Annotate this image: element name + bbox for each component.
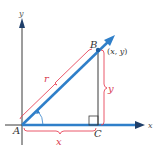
x-axis-label: x xyxy=(148,121,153,130)
y-axis-arrow-icon xyxy=(19,18,25,28)
horizontal-label: x xyxy=(56,136,62,147)
right-angle-marker xyxy=(89,116,98,125)
x-axis-arrow-icon xyxy=(135,121,145,129)
point-c-label: C xyxy=(94,128,102,139)
brace-r xyxy=(20,49,92,119)
vertical-label: y xyxy=(107,83,114,94)
brace-y xyxy=(101,50,107,125)
brace-x xyxy=(24,128,96,134)
y-axis-label: y xyxy=(18,9,24,18)
point-b-label: B xyxy=(89,39,97,50)
hypotenuse-label: r xyxy=(44,73,50,84)
vector-r xyxy=(22,35,115,125)
vector-diagram: y x A B (x, y) C r y x xyxy=(0,0,160,154)
point-a-label: A xyxy=(12,125,20,136)
point-b-coords: (x, y) xyxy=(107,47,127,56)
